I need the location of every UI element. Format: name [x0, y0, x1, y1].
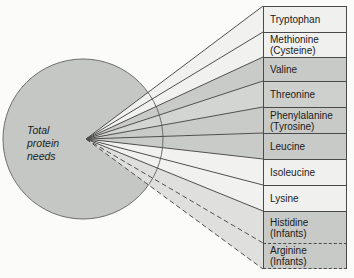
amino-acid-label: Phenylalanine (Tyrosine) [270, 110, 333, 132]
protein-needs-diagram: Total protein needs Tryptophan Methionin… [0, 0, 354, 278]
amino-acid-label: Valine [270, 64, 297, 75]
amino-acid-label: Leucine [270, 141, 305, 152]
amino-acid-column: Tryptophan Methionine (Cysteine) Valine … [263, 6, 347, 269]
amino-acid-label: Histidine (Infants) [270, 217, 308, 239]
amino-acid-label: Threonine [270, 89, 315, 100]
amino-acid-label: Arginine (Infants) [270, 245, 307, 267]
amino-acid-label: Methionine (Cysteine) [270, 34, 319, 56]
amino-acid-box-lysine: Lysine [263, 185, 347, 211]
amino-acid-box-histidine: Histidine (Infants) [263, 211, 347, 243]
amino-acid-box-phenylalanine: Phenylalanine (Tyrosine) [263, 107, 347, 133]
amino-acid-box-threonine: Threonine [263, 81, 347, 107]
amino-acid-box-arginine: Arginine (Infants) [263, 243, 347, 269]
amino-acid-label: Isoleucine [270, 167, 315, 178]
amino-acid-label: Lysine [270, 193, 299, 204]
amino-acid-label: Tryptophan [270, 14, 320, 25]
amino-acid-box-leucine: Leucine [263, 133, 347, 159]
amino-acid-box-tryptophan: Tryptophan [263, 6, 347, 32]
amino-acid-box-isoleucine: Isoleucine [263, 159, 347, 185]
circle-label: Total protein needs [27, 124, 59, 163]
amino-acid-box-valine: Valine [263, 57, 347, 81]
amino-acid-box-methionine: Methionine (Cysteine) [263, 32, 347, 57]
